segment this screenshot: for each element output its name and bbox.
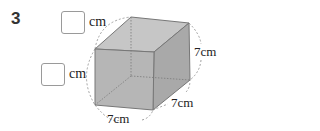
cube-front-face [95, 49, 154, 110]
height-dimension-label: 7cm [194, 45, 216, 58]
width-dimension-label: 7cm [107, 112, 129, 125]
depth-dimension-label: 7cm [171, 96, 193, 109]
